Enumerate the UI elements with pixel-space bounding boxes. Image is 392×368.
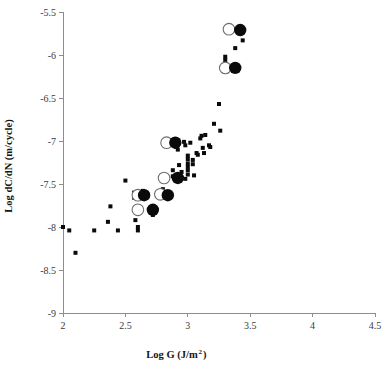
data-point-filled xyxy=(234,24,246,36)
x-axis-title-tail: ) xyxy=(203,349,207,361)
data-point-small xyxy=(136,225,140,229)
y-tick-labels: -5.5-6-6.5-7-7.5-8-8.5-9 xyxy=(40,7,56,319)
data-point-small xyxy=(123,179,127,183)
data-point-small xyxy=(218,129,222,133)
y-tick-label: -7 xyxy=(48,136,56,147)
data-point-small xyxy=(188,141,192,145)
data-point-small xyxy=(183,143,187,147)
data-point-small xyxy=(186,154,190,158)
x-tick-label: 4.5 xyxy=(369,320,382,331)
data-point-open xyxy=(132,204,144,216)
data-point-small xyxy=(67,228,71,232)
data-point-small xyxy=(233,46,237,50)
x-tick-labels: 22.533.544.5 xyxy=(61,320,382,331)
data-point-small xyxy=(177,163,181,167)
x-tick-label: 2.5 xyxy=(119,320,132,331)
data-point-small xyxy=(186,161,190,165)
y-tick-label: -9 xyxy=(48,308,56,319)
y-tick-label: -8.5 xyxy=(40,265,56,276)
data-point-small xyxy=(241,38,245,42)
data-point-small xyxy=(116,228,120,232)
y-tick-label: -7.5 xyxy=(40,179,56,190)
data-point-small xyxy=(208,145,212,149)
data-point-small xyxy=(171,168,175,172)
data-point-small xyxy=(191,158,195,162)
data-point-filled xyxy=(172,172,184,184)
plot-area: 22.533.544.5 -5.5-6-6.5-7-7.5-8-8.5-9 Lo… xyxy=(0,0,392,368)
data-point-small xyxy=(133,218,137,222)
data-point-small xyxy=(186,165,190,169)
x-tick-label: 3.5 xyxy=(244,320,257,331)
data-point-filled xyxy=(147,204,159,216)
tick-marks xyxy=(59,12,375,317)
scatter-chart: 22.533.544.5 -5.5-6-6.5-7-7.5-8-8.5-9 Lo… xyxy=(0,0,392,368)
data-point-small xyxy=(92,228,96,232)
data-points xyxy=(61,23,246,254)
y-tick-label: -8 xyxy=(48,222,56,233)
data-point-small xyxy=(73,251,77,255)
data-point-filled xyxy=(162,189,174,201)
data-point-small xyxy=(186,157,190,161)
data-point-filled xyxy=(138,189,150,201)
x-tick-label: 2 xyxy=(61,320,66,331)
data-point-filled xyxy=(229,62,241,74)
data-point-small xyxy=(223,55,227,59)
y-axis-title: Log dC/dN (m/cycle) xyxy=(3,119,15,213)
axes xyxy=(63,12,375,313)
x-axis-title: Log G (J/m 2 ) xyxy=(146,348,207,361)
x-tick-label: 3 xyxy=(185,320,190,331)
data-point-small xyxy=(186,168,190,172)
data-point-open xyxy=(158,172,170,184)
data-point-small xyxy=(136,228,140,232)
data-point-small xyxy=(201,146,205,150)
data-point-small xyxy=(203,133,207,137)
x-tick-label: 4 xyxy=(310,320,315,331)
data-point-small xyxy=(182,140,186,144)
x-axis-title-superscript: 2 xyxy=(198,348,202,356)
data-point-small xyxy=(217,102,221,106)
data-point-filled xyxy=(169,137,181,149)
y-tick-label: -6.5 xyxy=(40,93,56,104)
y-tick-label: -6 xyxy=(48,50,56,61)
data-point-small xyxy=(108,204,112,208)
data-point-open xyxy=(223,23,235,35)
data-point-small xyxy=(202,151,206,155)
data-point-small xyxy=(212,122,216,126)
y-tick-label: -5.5 xyxy=(40,7,56,18)
data-point-small xyxy=(200,134,204,138)
data-point-small xyxy=(61,225,65,229)
data-point-small xyxy=(196,153,200,157)
data-point-small xyxy=(106,220,110,224)
data-point-small xyxy=(186,173,190,177)
data-point-small xyxy=(192,173,196,177)
x-axis-title-text: Log G (J/m xyxy=(146,349,198,361)
data-point-small xyxy=(191,162,195,166)
